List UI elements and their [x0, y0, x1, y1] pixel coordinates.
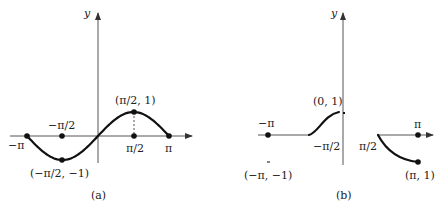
point-neg-pi-a — [24, 133, 30, 139]
label-pi-a: π — [165, 142, 172, 155]
label-min-point-a: (−π/2, −1) — [30, 167, 89, 180]
point-min-a — [59, 157, 65, 163]
point-neg-pi-b — [265, 132, 271, 138]
label-half-pi-a: π/2 — [126, 142, 144, 155]
panel-b: y −π −π/2 (0, 1) π/2 π (−π, −1) (π, 1) (… — [244, 7, 435, 202]
point-half-pi-a — [131, 133, 137, 139]
rising-curve-b — [309, 112, 339, 135]
label-neg-pi-b: −π — [258, 117, 274, 130]
point-max-a — [131, 109, 137, 115]
panel-a: y −π −π/2 π/2 π (π/2, 1) (−π/2, −1) (a) — [8, 7, 192, 202]
label-left-point-b: (−π, −1) — [244, 169, 292, 182]
label-max-point-a: (π/2, 1) — [115, 94, 156, 107]
label-pi-b: π — [414, 118, 421, 131]
label-top-point-b: (0, 1) — [313, 95, 343, 108]
label-half-pi-b: π/2 — [359, 140, 377, 153]
point-pi-a — [166, 133, 172, 139]
caption-b: (b) — [336, 189, 352, 202]
falling-curve-b — [378, 135, 418, 162]
label-right-point-b: (π, 1) — [405, 169, 435, 182]
caption-a: (a) — [91, 189, 106, 202]
diagram-canvas: y −π −π/2 π/2 π (π/2, 1) (−π/2, −1) (a) … — [0, 0, 439, 209]
y-axis-label-b: y — [330, 7, 338, 20]
y-axis-label-a: y — [83, 7, 91, 20]
label-neg-half-pi-a: −π/2 — [48, 119, 75, 132]
point-pi-b — [415, 132, 421, 138]
point-neg-half-pi-a — [59, 133, 65, 139]
label-neg-pi-a: −π — [8, 139, 24, 152]
point-right-b — [415, 159, 421, 165]
label-neg-half-pi-b: −π/2 — [313, 140, 340, 153]
